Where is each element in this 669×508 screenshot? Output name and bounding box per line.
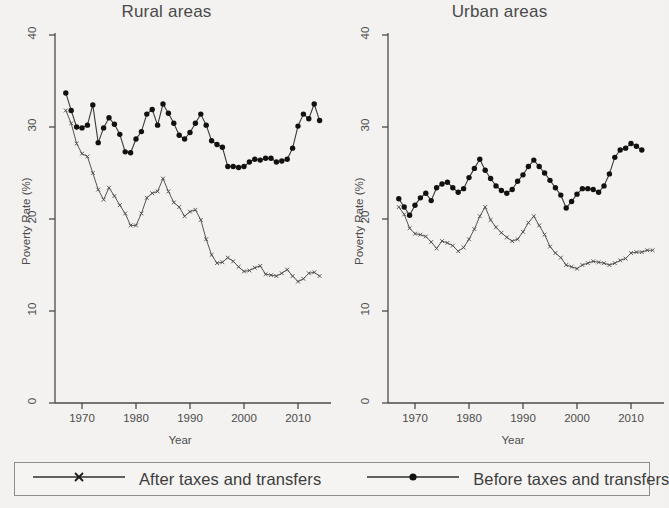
legend-key-after	[31, 469, 127, 489]
plot-area-urban	[333, 0, 666, 452]
legend-label-after: After taxes and transfers	[139, 470, 321, 489]
y-tick-label: 40	[26, 22, 38, 44]
y-tick-label: 0	[26, 390, 38, 412]
x-tick-label: 1970	[58, 412, 106, 424]
y-tick-label: 10	[26, 298, 38, 320]
x-tick-label: 2000	[553, 412, 601, 424]
legend-entry-before: Before taxes and transfers	[365, 469, 669, 489]
y-tick-label: 10	[359, 298, 371, 320]
series-markers-after	[397, 205, 655, 270]
y-tick-label: 30	[359, 114, 371, 136]
x-tick-label: 1970	[391, 412, 439, 424]
legend-entry-after: After taxes and transfers	[31, 469, 321, 489]
legend-row: After taxes and transfers Before taxes a…	[15, 463, 649, 495]
x-tick-label: 1980	[445, 412, 493, 424]
x-tick-label: 1990	[166, 412, 214, 424]
y-tick-label: 20	[359, 206, 371, 228]
panel-urban: Urban areas Poverty Rate (%) Year 010203…	[333, 0, 666, 452]
x-tick-label: 2000	[220, 412, 268, 424]
legend: After taxes and transfers Before taxes a…	[14, 462, 650, 496]
panels-container: Rural areas Poverty Rate (%) Year 010203…	[0, 0, 666, 452]
plot-area-rural	[0, 0, 333, 452]
y-tick-label: 40	[359, 22, 371, 44]
legend-key-before	[365, 469, 461, 489]
series-markers-before	[63, 90, 322, 170]
y-tick-label: 20	[26, 206, 38, 228]
x-axis-title-urban: Year	[483, 434, 543, 446]
y-tick-label: 0	[359, 390, 371, 412]
x-tick-label: 1980	[112, 412, 160, 424]
panel-rural: Rural areas Poverty Rate (%) Year 010203…	[0, 0, 333, 452]
x-axis-title-rural: Year	[150, 434, 210, 446]
x-tick-label: 1990	[499, 412, 547, 424]
legend-label-before: Before taxes and transfers	[473, 470, 669, 489]
x-tick-label: 2010	[607, 412, 655, 424]
series-markers-after	[64, 109, 322, 284]
y-tick-label: 30	[26, 114, 38, 136]
x-tick-label: 2010	[274, 412, 322, 424]
